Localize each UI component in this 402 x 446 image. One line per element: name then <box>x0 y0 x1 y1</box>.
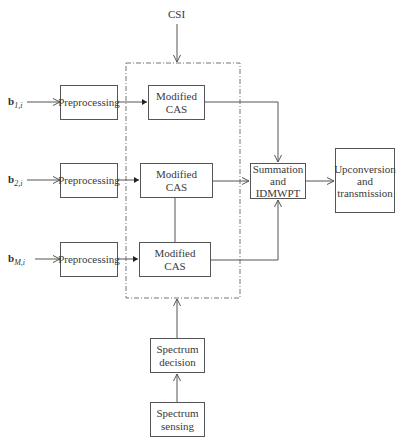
block-label: Preprocessing <box>58 96 120 109</box>
block-label-line1: Modified <box>156 90 197 103</box>
block-label-line2: decision <box>159 356 196 369</box>
input-subscript: 2,i <box>14 179 22 188</box>
block-label: Preprocessing <box>58 253 120 266</box>
modified-cas-block-1: Modified CAS <box>148 85 205 120</box>
input-label-2: b2,i <box>8 173 22 188</box>
preprocessing-block-2: Preprocessing <box>60 163 118 198</box>
block-label-line2: and <box>270 175 286 187</box>
input-subscript: 1,i <box>14 101 22 110</box>
input-label-m: bM,i <box>8 252 25 267</box>
block-label-line1: Modified <box>156 168 197 181</box>
spectrum-sensing-block: Spectrum sensing <box>150 402 205 437</box>
preprocessing-block-1: Preprocessing <box>60 85 118 120</box>
connector-layer <box>0 0 402 446</box>
preprocessing-block-m: Preprocessing <box>60 242 118 277</box>
block-label-line2: and <box>357 175 373 187</box>
block-label-line1: Spectrum <box>156 407 198 420</box>
modified-cas-block-m: Modified CAS <box>139 242 211 277</box>
block-label-line2: CAS <box>166 103 187 116</box>
input-subscript: M,i <box>14 258 25 267</box>
block-label-line1: Spectrum <box>156 343 198 356</box>
block-label-line1: Modified <box>155 247 196 260</box>
block-label-line1: Summation <box>253 163 304 175</box>
spectrum-decision-block: Spectrum decision <box>150 338 205 373</box>
summation-idmwpt-block: Summation and IDMWPT <box>250 163 306 199</box>
block-label-line2: CAS <box>164 260 185 273</box>
block-label-line3: IDMWPT <box>256 187 301 199</box>
upconversion-transmission-block: Upconversion and transmission <box>335 148 395 213</box>
block-label: Preprocessing <box>58 174 120 187</box>
modified-cas-block-2: Modified CAS <box>140 163 213 198</box>
block-label-line2: sensing <box>161 420 194 433</box>
block-label-line3: transmission <box>337 187 393 199</box>
csi-label: CSI <box>168 8 185 20</box>
block-label-line1: Upconversion <box>334 163 396 175</box>
block-label-line2: CAS <box>166 181 187 194</box>
input-label-1: b1,i <box>8 95 22 110</box>
